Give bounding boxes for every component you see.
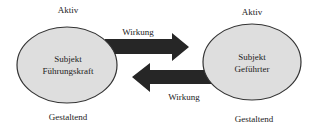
arrow-left <box>132 63 212 92</box>
left-bottom-label: Gestaltend <box>49 113 88 122</box>
right-node-line1: Subjekt <box>235 51 270 63</box>
left-top-label: Aktiv <box>58 6 79 15</box>
arrow-right <box>105 33 189 61</box>
left-node-line2: Führungskraft <box>43 65 94 77</box>
right-bottom-label: Gestaltend <box>235 115 274 124</box>
right-node-text: Subjekt Geführter <box>235 51 270 75</box>
arrow-left-label: Wirkung <box>168 93 200 102</box>
arrow-right-label: Wirkung <box>122 28 154 37</box>
right-node-line2: Geführter <box>235 63 270 75</box>
left-node-line1: Subjekt <box>43 53 94 65</box>
left-node-text: Subjekt Führungskraft <box>43 53 94 77</box>
right-top-label: Aktiv <box>242 8 263 17</box>
